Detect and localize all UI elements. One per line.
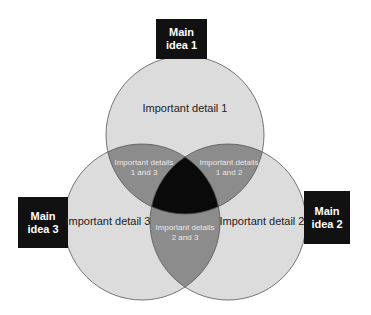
main-idea-2-box: Main idea 2	[304, 191, 350, 244]
main-idea-3-box: Main idea 3	[18, 197, 68, 248]
detail-2-label: Important detail 2	[220, 215, 305, 227]
overlap-1-2-label: Important details 1 and 2	[199, 158, 258, 178]
detail-1-label: Important detail 1	[143, 102, 228, 114]
main-idea-2-line2: idea 2	[311, 218, 342, 231]
detail-3-label: Important detail 3	[66, 215, 151, 227]
main-idea-3-line1: Main	[30, 210, 55, 223]
main-idea-3-line2: idea 3	[27, 223, 58, 236]
main-idea-2-line1: Main	[314, 205, 339, 218]
overlap-1-3-label: Important details 1 and 3	[114, 158, 173, 178]
main-idea-1-line1: Main	[169, 26, 194, 39]
main-idea-1-box: Main idea 1	[156, 19, 207, 59]
main-idea-1-line2: idea 1	[166, 39, 197, 52]
overlap-2-3-label: Important details 2 and 3	[155, 223, 214, 243]
